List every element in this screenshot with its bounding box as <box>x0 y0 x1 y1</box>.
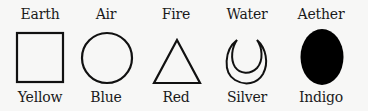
aether-filled-ellipse-icon <box>301 29 344 85</box>
element-name-aether: Aether <box>286 6 356 22</box>
element-name-fire: Fire <box>141 6 211 22</box>
element-color-earth: Yellow <box>5 89 75 105</box>
element-name-water: Water <box>212 6 282 22</box>
element-color-air: Blue <box>71 89 141 105</box>
water-crescent-icon <box>227 40 267 83</box>
fire-triangle-icon <box>154 40 200 83</box>
element-name-earth: Earth <box>5 6 75 22</box>
element-color-water: Silver <box>212 89 282 105</box>
element-color-fire: Red <box>141 89 211 105</box>
earth-square-icon <box>17 33 63 82</box>
element-name-air: Air <box>71 6 141 22</box>
air-circle-icon <box>82 33 132 83</box>
element-color-aether: Indigo <box>286 89 356 105</box>
